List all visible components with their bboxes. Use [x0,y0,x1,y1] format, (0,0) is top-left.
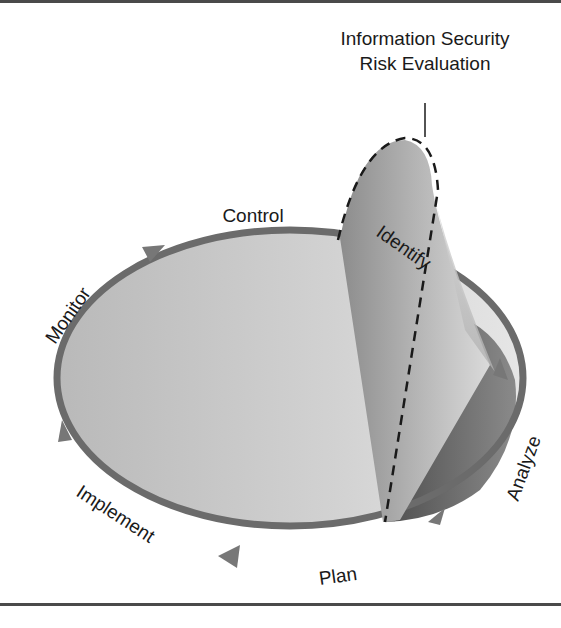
label-control: Control [222,205,283,226]
title-line-1: Information Security [341,28,510,49]
arrow-icon [218,545,240,568]
risk-cycle-diagram: Information Security Risk Evaluation Con… [0,0,561,628]
label-plan: Plan [318,563,359,589]
label-analyze: Analyze [502,433,545,504]
bottom-rule [0,603,561,606]
title-line-2: Risk Evaluation [360,53,491,74]
